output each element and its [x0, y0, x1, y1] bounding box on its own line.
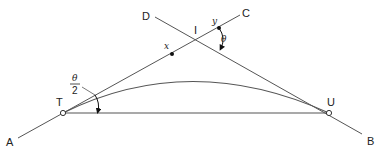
label-y: y	[211, 16, 218, 26]
circular-arc	[63, 82, 329, 114]
tangent-line-a-c	[18, 15, 240, 138]
half-theta-denominator: 2	[72, 85, 78, 96]
label-u: U	[327, 96, 335, 108]
label-c: C	[242, 7, 250, 19]
label-d: D	[142, 10, 150, 22]
label-a: A	[6, 136, 14, 148]
point-t-marker	[60, 110, 65, 115]
half-theta-angle-arc	[95, 95, 99, 111]
label-x: x	[164, 41, 169, 51]
label-theta: θ	[221, 34, 227, 44]
half-theta-leader	[82, 87, 95, 95]
label-i: I	[194, 24, 197, 36]
label-t: T	[56, 96, 63, 108]
curve-diagram: A B C D I T U x y θ θ 2	[0, 0, 379, 152]
tangent-line-d-b	[155, 17, 362, 134]
point-y-dot	[217, 26, 221, 30]
point-x-dot	[170, 52, 174, 56]
half-theta-numerator: θ	[72, 73, 78, 83]
label-b: B	[367, 135, 374, 147]
point-u-marker	[326, 110, 331, 115]
